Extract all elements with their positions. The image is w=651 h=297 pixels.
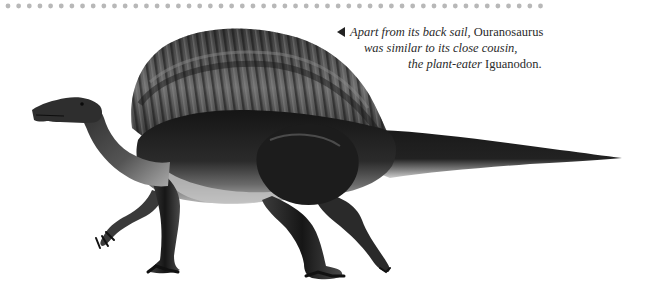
species-name: Iguanodon. [485, 57, 542, 71]
eye [80, 102, 84, 106]
head [32, 97, 102, 123]
far-hind-leg [316, 192, 390, 272]
caption-line: was similar to its close cousin, [337, 40, 557, 56]
pointer-triangle-icon [337, 27, 345, 37]
caption-text: was similar to its close cousin, [364, 41, 517, 55]
species-name: Ouranosaurus [474, 25, 543, 39]
caption-line: Apart from its back sail, Ouranosaurus [337, 24, 557, 40]
caption-line: the plant-eater Iguanodon. [337, 56, 557, 72]
figure-caption: Apart from its back sail, Ouranosauruswa… [337, 24, 557, 72]
caption-text: the plant-eater [408, 57, 485, 71]
tail [370, 130, 622, 178]
caption-text: Apart from its back sail, [350, 25, 474, 39]
far-front-leg [100, 190, 164, 246]
